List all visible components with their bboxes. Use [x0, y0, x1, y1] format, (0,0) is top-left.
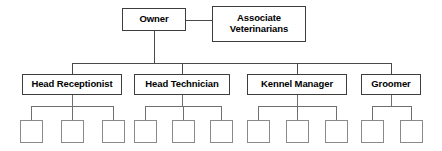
leaf-node[interactable] [247, 120, 270, 143]
connector-groomer-stem [391, 95, 392, 106]
connector-head-technician-leaf-1 [145, 106, 146, 120]
node-associate-veterinarians-label: Associate Veterinarians [228, 13, 290, 35]
leaf-node[interactable] [361, 120, 384, 143]
leaf-node[interactable] [325, 120, 348, 143]
connector-drop-kennel-manager [297, 63, 298, 74]
leaf-node[interactable] [134, 120, 157, 143]
connector-kennel-manager-leaf-3 [336, 106, 337, 120]
leaf-node[interactable] [20, 120, 43, 143]
node-owner-label: Owner [137, 14, 170, 25]
connector-head-receptionist-leaf-1 [31, 106, 32, 120]
node-kennel-manager[interactable]: Kennel Manager [247, 74, 347, 95]
connector-kennel-manager-leaf-1 [258, 106, 259, 120]
leaf-node[interactable] [400, 120, 423, 143]
connector-owner-to-associate [186, 20, 212, 21]
connector-head-technician-leaf-3 [221, 106, 222, 120]
connector-tier2-bus [72, 63, 391, 64]
node-groomer-label: Groomer [369, 79, 412, 90]
leaf-node[interactable] [61, 120, 84, 143]
leaf-node[interactable] [210, 120, 233, 143]
connector-head-receptionist-stem [72, 95, 73, 106]
connector-groomer-leaf-1 [372, 106, 373, 120]
node-head-technician[interactable]: Head Technician [134, 74, 230, 95]
connector-kennel-manager-leaf-2 [297, 106, 298, 120]
connector-owner-trunk [154, 31, 155, 63]
node-groomer[interactable]: Groomer [361, 74, 421, 95]
connector-groomer-leaf-2 [411, 106, 412, 120]
node-owner[interactable]: Owner [122, 8, 186, 31]
connector-groomer-bus [372, 106, 411, 107]
connector-head-technician-leaf-2 [183, 106, 184, 120]
node-kennel-manager-label: Kennel Manager [259, 79, 335, 90]
connector-kennel-manager-stem [297, 95, 298, 106]
node-head-receptionist-label: Head Receptionist [29, 79, 114, 90]
node-head-technician-label: Head Technician [143, 79, 220, 90]
node-head-receptionist[interactable]: Head Receptionist [22, 74, 122, 95]
connector-drop-groomer [391, 63, 392, 74]
leaf-node[interactable] [286, 120, 309, 143]
connector-head-technician-stem [182, 95, 183, 106]
org-chart: Owner Associate Veterinarians Head Recep… [0, 0, 442, 151]
connector-drop-head-receptionist [72, 63, 73, 74]
leaf-node[interactable] [172, 120, 195, 143]
connector-head-receptionist-leaf-2 [72, 106, 73, 120]
node-associate-veterinarians[interactable]: Associate Veterinarians [212, 6, 306, 42]
connector-head-receptionist-leaf-3 [113, 106, 114, 120]
leaf-node[interactable] [102, 120, 125, 143]
connector-drop-head-technician [182, 63, 183, 74]
